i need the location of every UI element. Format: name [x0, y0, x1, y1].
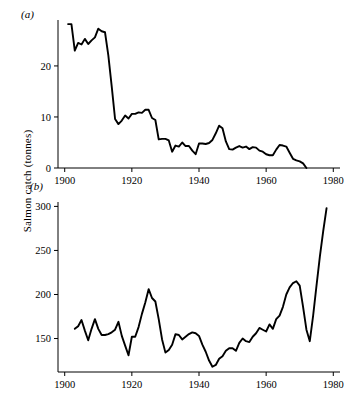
panel-a-x-ticklabel: 1980 [323, 175, 344, 186]
panel-b-plot: 19001920194019601980150200250300 [0, 190, 354, 409]
panel-b-data-series [75, 208, 327, 367]
panel-b-y-ticklabel: 200 [35, 289, 51, 300]
panel-a-y-ticklabel: 20 [41, 61, 52, 72]
panel-a-y-ticklabel: 10 [41, 112, 52, 123]
salmon-catch-figure: Salmon catch (tonnes) (a) (b) 1900192019… [0, 0, 354, 409]
panel-a: 1900192019401960198001020 [0, 0, 354, 190]
panel-b-y-ticklabel: 250 [35, 245, 51, 256]
panel-a-y-ticklabel: 0 [46, 163, 51, 174]
panel-b-y-ticklabel: 150 [35, 333, 51, 344]
panel-b-x-ticklabel: 1960 [256, 379, 277, 390]
panel-b: 19001920194019601980150200250300 [0, 190, 354, 409]
panel-b-x-ticklabel: 1900 [54, 379, 75, 390]
panel-b-y-ticklabel: 300 [35, 201, 51, 212]
panel-a-x-ticklabel: 1900 [54, 175, 75, 186]
panel-b-x-ticklabel: 1940 [189, 379, 210, 390]
panel-a-x-ticklabel: 1920 [121, 175, 142, 186]
panel-a-x-ticklabel: 1960 [256, 175, 277, 186]
panel-a-data-series [68, 24, 306, 168]
panel-b-x-ticklabel: 1980 [323, 379, 344, 390]
panel-b-x-ticklabel: 1920 [121, 379, 142, 390]
panel-a-plot: 1900192019401960198001020 [0, 0, 354, 190]
panel-a-x-ticklabel: 1940 [189, 175, 210, 186]
